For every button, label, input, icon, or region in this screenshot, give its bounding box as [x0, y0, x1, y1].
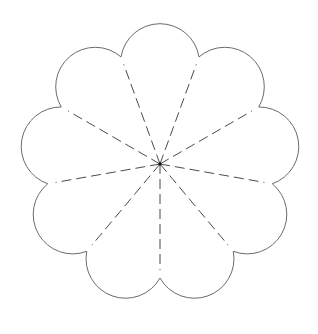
center-point [158, 162, 161, 165]
flower-template-diagram [0, 0, 318, 334]
